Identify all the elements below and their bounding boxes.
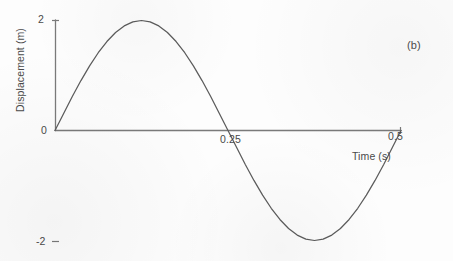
- panel-label: (b): [407, 39, 421, 51]
- y-axis-tick-label-2: 2: [38, 13, 44, 25]
- y-axis-tick-label-0: 0: [41, 124, 47, 136]
- y-axis-title: Displacement (m): [14, 20, 26, 120]
- figure-container: 2 0 -2 0.25 0.5 Displacement (m) Time (s…: [0, 0, 453, 261]
- x-axis-tick-label-0-25: 0.25: [220, 133, 241, 145]
- sine-wave-plot: [0, 0, 453, 261]
- y-axis-tick-label-minus-2: -2: [36, 235, 46, 247]
- x-axis-tick-label-0-5: 0.5: [388, 130, 403, 142]
- x-axis-title: Time (s): [352, 150, 391, 162]
